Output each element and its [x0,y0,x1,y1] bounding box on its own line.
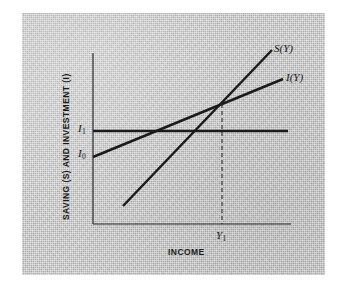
y-axis-title: SAVING (S) AND INVESTMENT (I) [62,73,71,220]
x-axis-title: INCOME [168,248,205,257]
figure-page: SAVING (S) AND INVESTMENT (I) INCOME I1 … [0,0,341,291]
investment-curve-label: I(Y) [286,72,303,83]
y-tick-label-I1: I1 [78,123,85,134]
x-tick-Y1-subscript: 1 [222,234,226,243]
saving-curve-label: S(Y) [274,43,293,54]
investment-curve [93,79,283,157]
x-tick-label-Y1: Y1 [216,230,226,241]
y-tick-I0-subscript: 0 [82,152,86,161]
y-tick-I1-subscript: 1 [82,127,86,136]
y-tick-label-I0: I0 [78,148,85,159]
saving-curve [123,50,272,206]
economics-chart: SAVING (S) AND INVESTMENT (I) INCOME I1 … [0,0,341,291]
